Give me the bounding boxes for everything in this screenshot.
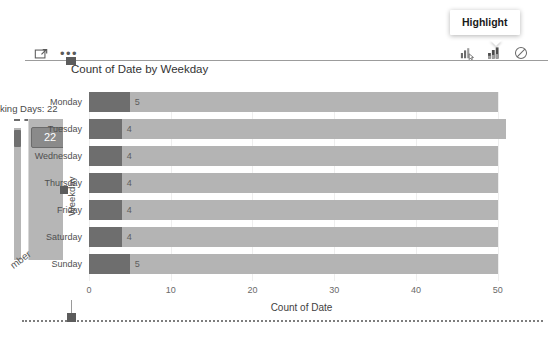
x-tick-label: 50 [493,286,503,295]
bar-data-label: 4 [127,204,132,216]
x-tick-label: 10 [166,286,176,295]
bar-data-label: 4 [127,231,132,243]
resize-handle-bottom[interactable] [67,313,76,322]
bar-highlight-segment[interactable] [89,254,130,274]
x-axis-title: Count of Date [89,302,514,313]
bar-highlight-segment[interactable] [89,146,122,166]
bar-highlight-segment[interactable] [89,200,122,220]
left-visual-bar-thin[interactable] [14,128,21,260]
bar-highlight-segment[interactable] [89,92,130,112]
bar-row[interactable]: Tuesday4 [89,119,514,139]
x-tick-label: 40 [411,286,421,295]
category-label: Monday [50,98,82,107]
plot-area[interactable]: Monday5Tuesday4Wednesday4Thursday4Friday… [89,92,514,287]
category-label: Wednesday [35,152,82,161]
bar-data-label: 4 [127,177,132,189]
category-label: Sunday [51,260,82,269]
bar-data-label: 4 [127,123,132,135]
chart-title: Count of Date by Weekday [71,63,208,75]
bar-row[interactable]: Wednesday4 [89,146,514,166]
bar-total-segment[interactable] [89,119,506,139]
bar-total-segment[interactable] [89,254,498,274]
x-tick-label: 0 [86,286,91,295]
bar-data-label: 5 [135,96,140,108]
filter-mode-icon[interactable] [460,46,474,60]
category-label: Tuesday [48,125,82,134]
visual-header-toolbar-right[interactable] [460,46,528,60]
bar-highlight-segment[interactable] [89,119,122,139]
resize-handle-middle[interactable] [60,186,68,194]
x-tick-label: 30 [329,286,339,295]
bar-row[interactable]: Friday4 [89,200,514,220]
bar-total-segment[interactable] [89,92,498,112]
bar-total-segment[interactable] [89,200,498,220]
no-interaction-icon[interactable] [514,46,528,60]
category-label: Friday [57,206,82,215]
selection-dotted-border [22,320,543,322]
bar-highlight-segment[interactable] [89,173,122,193]
bar-total-segment[interactable] [89,146,498,166]
bar-row[interactable]: Saturday4 [89,227,514,247]
category-label: Saturday [46,233,82,242]
bar-total-segment[interactable] [89,173,498,193]
left-visual-bar-thin-highlight [14,130,21,147]
bar-row[interactable]: Monday5 [89,92,514,112]
focus-mode-icon[interactable] [34,47,48,61]
highlight-tooltip: Highlight [450,10,520,35]
highlight-mode-icon[interactable] [487,46,501,60]
bar-total-segment[interactable] [89,227,498,247]
left-visual-title: king Days: 22 [0,103,58,114]
bar-highlight-segment[interactable] [89,227,122,247]
left-visual-category-label: mber [8,248,33,271]
resize-handle-top[interactable] [66,57,76,65]
bar-data-label: 4 [127,150,132,162]
x-tick-label: 20 [247,286,257,295]
bar-row[interactable]: Sunday5 [89,254,514,274]
bar-data-label: 5 [135,258,140,270]
bar-row[interactable]: Thursday4 [89,173,514,193]
